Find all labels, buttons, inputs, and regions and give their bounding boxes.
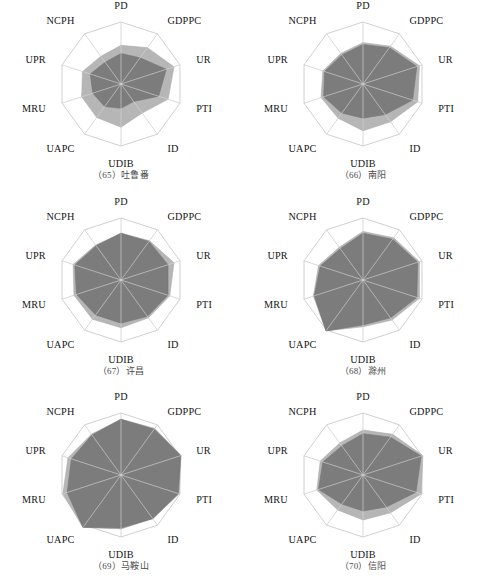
radar-axis-label: UPR (267, 250, 287, 261)
radar-chart-cell: PDGDPPCURPTIIDUDIBUAPCMRUUPRNCPH（70）信阳 (242, 391, 484, 586)
radar-axis-label: PTI (196, 299, 212, 310)
radar-axis-label: MRU (264, 494, 288, 505)
chart-caption: （69）马鞍山 (0, 559, 242, 572)
radar-axis-label: NCPH (289, 406, 317, 417)
radar-chart-cell: PDGDPPCURPTIIDUDIBUAPCMRUUPRNCPH（65）吐鲁番 (0, 0, 242, 195)
radar-axis-label: PTI (196, 494, 212, 505)
radar-axis-label: UR (438, 250, 453, 261)
radar-series-inner (67, 419, 181, 528)
radar-axis-label: UAPC (289, 143, 317, 154)
radar-axis-label: PTI (438, 103, 454, 114)
radar-axis-label: UR (438, 54, 453, 65)
radar-axis-label: UDIB (350, 158, 376, 169)
radar-axis-label: GDPPC (409, 211, 443, 222)
chart-caption: （70）信阳 (242, 559, 484, 572)
radar-axis-label: UPR (25, 250, 45, 261)
radar-axis-label: MRU (264, 299, 288, 310)
radar-axis-label: UR (196, 54, 211, 65)
radar-chart-cell: PDGDPPCURPTIIDUDIBUAPCMRUUPRNCPH（66）南阳 (242, 0, 484, 195)
radar-axis-label: NCPH (289, 211, 317, 222)
radar-axis-label: PD (114, 196, 127, 207)
radar-axis-label: UDIB (108, 549, 134, 560)
radar-axis-label: UDIB (350, 549, 376, 560)
radar-axis-label: PD (114, 0, 127, 11)
radar-axis-label: ID (167, 534, 178, 545)
radar-plot: PDGDPPCURPTIIDUDIBUAPCMRUUPRNCPH (0, 0, 242, 172)
radar-axis-label: UPR (25, 445, 45, 456)
radar-chart-cell: PDGDPPCURPTIIDUDIBUAPCMRUUPRNCPH（68）滁州 (242, 196, 484, 391)
radar-axis-label: UPR (267, 54, 287, 65)
radar-axis-label: UAPC (47, 143, 75, 154)
radar-axis-label: UDIB (350, 354, 376, 365)
radar-axis-label: PD (114, 391, 127, 402)
radar-axis-label: MRU (22, 103, 46, 114)
radar-axis-label: ID (167, 339, 178, 350)
radar-plot: PDGDPPCURPTIIDUDIBUAPCMRUUPRNCPH (0, 196, 242, 368)
radar-axis-label: UAPC (47, 339, 75, 350)
radar-axis-label: GDPPC (167, 406, 201, 417)
radar-axis-label: MRU (22, 299, 46, 310)
radar-axis-label: PD (356, 0, 369, 11)
radar-axis-label: UAPC (289, 339, 317, 350)
radar-axis-label: ID (409, 534, 420, 545)
radar-axis-label: UR (438, 445, 453, 456)
radar-axis-label: GDPPC (409, 15, 443, 26)
chart-caption: （68）滁州 (242, 364, 484, 377)
radar-axis-label: ID (167, 143, 178, 154)
radar-plot: PDGDPPCURPTIIDUDIBUAPCMRUUPRNCPH (0, 391, 242, 563)
radar-axis-label: GDPPC (167, 211, 201, 222)
radar-axis-label: UDIB (108, 158, 134, 169)
radar-axis-label: NCPH (47, 406, 75, 417)
radar-axis-label: UAPC (47, 534, 75, 545)
radar-axis-label: MRU (22, 494, 46, 505)
radar-axis-label: UPR (25, 54, 45, 65)
radar-chart-grid: PDGDPPCURPTIIDUDIBUAPCMRUUPRNCPH（65）吐鲁番P… (0, 0, 484, 586)
chart-caption: （65）吐鲁番 (0, 168, 242, 181)
radar-axis-label: NCPH (289, 15, 317, 26)
radar-plot: PDGDPPCURPTIIDUDIBUAPCMRUUPRNCPH (242, 0, 484, 172)
radar-axis-label: UR (196, 250, 211, 261)
radar-chart-cell: PDGDPPCURPTIIDUDIBUAPCMRUUPRNCPH（69）马鞍山 (0, 391, 242, 586)
radar-axis-label: ID (409, 339, 420, 350)
radar-axis-label: NCPH (47, 211, 75, 222)
radar-plot: PDGDPPCURPTIIDUDIBUAPCMRUUPRNCPH (242, 391, 484, 563)
radar-axis-label: PTI (438, 299, 454, 310)
radar-axis-label: UAPC (289, 534, 317, 545)
radar-axis-label: PD (356, 391, 369, 402)
radar-axis-label: UPR (267, 445, 287, 456)
radar-axis-label: PTI (438, 494, 454, 505)
radar-chart-cell: PDGDPPCURPTIIDUDIBUAPCMRUUPRNCPH（67）许昌 (0, 196, 242, 391)
radar-axis-label: GDPPC (167, 15, 201, 26)
chart-caption: （67）许昌 (0, 364, 242, 377)
radar-axis-label: UR (196, 445, 211, 456)
radar-axis-label: UDIB (108, 354, 134, 365)
radar-axis-label: MRU (264, 103, 288, 114)
radar-plot: PDGDPPCURPTIIDUDIBUAPCMRUUPRNCPH (242, 196, 484, 368)
radar-series-inner (314, 233, 417, 331)
chart-caption: （66）南阳 (242, 168, 484, 181)
radar-axis-label: NCPH (47, 15, 75, 26)
radar-axis-label: PTI (196, 103, 212, 114)
radar-axis-label: ID (409, 143, 420, 154)
radar-axis-label: GDPPC (409, 406, 443, 417)
radar-axis-label: PD (356, 196, 369, 207)
